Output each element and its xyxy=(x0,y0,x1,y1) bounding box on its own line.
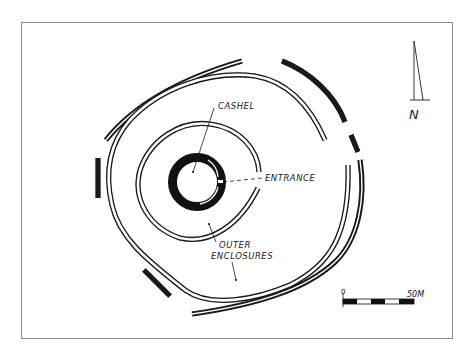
scale-bar: 0 50M xyxy=(341,288,424,307)
outer-enclosures-leader-lower xyxy=(232,262,236,280)
entrance-label: ENTRANCE xyxy=(265,173,315,183)
scale-end-label: 50M xyxy=(407,290,424,299)
scale-start-label: 0 xyxy=(341,288,345,296)
leader-dot xyxy=(208,223,210,225)
cashel-label: CASHEL xyxy=(218,101,255,111)
outer-enclosures-label-2: ENCLOSURES xyxy=(211,251,273,261)
cashel xyxy=(173,158,224,207)
outer-enclosures-label-1: OUTER xyxy=(219,240,251,250)
north-arrow-icon: N xyxy=(409,41,430,122)
leader-dot xyxy=(235,279,237,281)
entrance-leader xyxy=(223,178,262,182)
inner-enclosure xyxy=(138,123,259,239)
site-plan: CASHEL ENTRANCE OUTER ENCLOSURES N 0 50M xyxy=(0,0,472,359)
north-label: N xyxy=(409,107,419,122)
